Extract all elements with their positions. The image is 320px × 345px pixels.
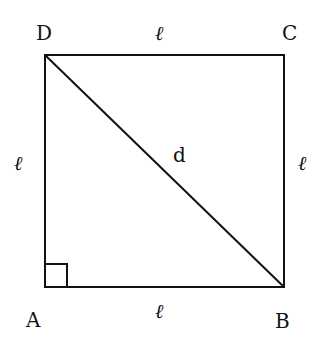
right-angle-marker bbox=[45, 264, 67, 287]
diagonal-label: d bbox=[173, 143, 186, 167]
square-diagonal-diagram: D C B A ℓ ℓ ℓ ℓ d bbox=[0, 0, 320, 345]
side-label-right: ℓ bbox=[298, 151, 307, 175]
vertex-label-a: A bbox=[25, 308, 41, 332]
vertex-label-b: B bbox=[275, 309, 290, 333]
diagonal-line-db bbox=[45, 55, 284, 287]
vertex-label-d: D bbox=[36, 21, 52, 45]
vertex-label-c: C bbox=[282, 21, 297, 45]
side-label-bottom: ℓ bbox=[155, 299, 164, 323]
side-label-top: ℓ bbox=[155, 21, 164, 45]
side-label-left: ℓ bbox=[14, 151, 23, 175]
